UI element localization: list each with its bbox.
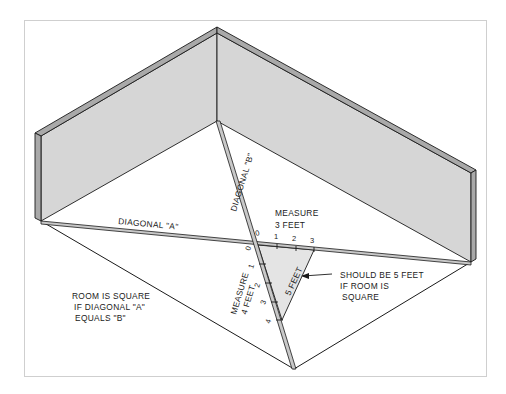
scale-4ft-3: 3 bbox=[258, 299, 268, 306]
scale-4ft-4: 4 bbox=[263, 318, 273, 325]
scale-3ft-0: 0 bbox=[254, 228, 260, 238]
note-line3: EQUALS "B" bbox=[75, 313, 126, 323]
room-squaring-diagram: DIAGONAL "A" DIAGONAL "B" MEASURE 3 FEET… bbox=[0, 0, 506, 394]
left-wall bbox=[35, 27, 217, 221]
callout-line1: SHOULD BE 5 FEET bbox=[340, 270, 424, 280]
scale-3ft-1: 1 bbox=[274, 232, 278, 241]
scale-4ft-1: 1 bbox=[246, 263, 256, 270]
callout-line3: SQUARE bbox=[342, 292, 379, 302]
scale-3ft-2: 2 bbox=[292, 234, 296, 243]
label-measure-3-line2: 3 FEET bbox=[275, 220, 305, 230]
measure-4-label: MEASURE 4 FEET bbox=[228, 271, 260, 319]
scale-4ft-0: 0 bbox=[243, 245, 253, 252]
label-measure-3-line1: MEASURE bbox=[275, 208, 319, 218]
scale-3ft-3: 3 bbox=[310, 236, 314, 245]
callout-line2: IF ROOM IS bbox=[340, 281, 389, 291]
note-line1: ROOM IS SQUARE bbox=[72, 291, 150, 301]
note-line2: IF DIAGONAL "A" bbox=[74, 302, 145, 312]
callout-arrow bbox=[301, 273, 332, 279]
right-wall bbox=[217, 27, 476, 262]
